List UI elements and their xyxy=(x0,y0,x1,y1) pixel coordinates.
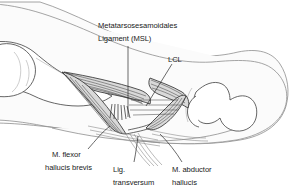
label-transversum-line1: Lig. xyxy=(113,165,125,174)
label-transversum-line2: transversum xyxy=(113,178,154,187)
label-lig-transversum: Lig. transversum xyxy=(113,165,154,187)
anatomical-figure: Metatarsosesamoidales Ligament (MSL) LCL… xyxy=(0,0,291,191)
label-abductor-hallucis: M. abductor hallucis xyxy=(172,165,212,187)
label-lcl: LCL xyxy=(168,55,182,64)
label-abductor-line1: M. abductor xyxy=(172,165,212,174)
label-msl-line1: Metatarsosesamoidales xyxy=(98,21,177,30)
label-flexor-hallucis-brevis: M. flexor hallucis brevis xyxy=(45,150,92,172)
anatomy-illustration: Metatarsosesamoidales Ligament (MSL) LCL… xyxy=(0,0,291,191)
label-lcl-line1: LCL xyxy=(168,55,182,64)
label-flexor-line1: M. flexor xyxy=(52,150,81,159)
label-msl-line2: Ligament (MSL) xyxy=(98,34,152,43)
label-abductor-line2: hallucis xyxy=(172,178,197,187)
label-flexor-line2: hallucis brevis xyxy=(45,163,92,172)
